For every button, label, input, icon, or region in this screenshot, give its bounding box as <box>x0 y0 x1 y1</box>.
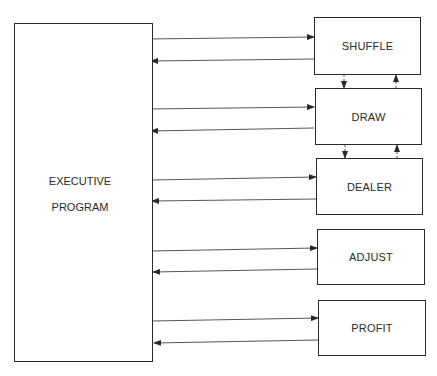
module-dealer-label: DEALER <box>347 181 392 193</box>
module-adjust-label: ADJUST <box>349 251 393 263</box>
module-adjust: ADJUST <box>317 229 425 285</box>
module-profit: PROFIT <box>318 300 426 356</box>
executive-label-line2: PROGRAM <box>40 194 120 220</box>
executive-program-label: EXECUTIVE PROGRAM <box>40 168 120 220</box>
module-shuffle: SHUFFLE <box>314 17 421 75</box>
module-draw-label: DRAW <box>352 111 386 123</box>
module-draw: DRAW <box>315 88 422 145</box>
module-dealer: DEALER <box>316 158 423 215</box>
module-shuffle-label: SHUFFLE <box>342 40 394 52</box>
module-profit-label: PROFIT <box>351 322 393 334</box>
executive-label-line1: EXECUTIVE <box>40 168 120 194</box>
